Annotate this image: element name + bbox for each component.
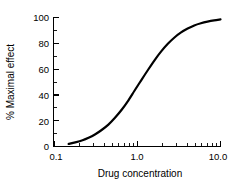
y-tick-label-100: 100	[33, 12, 49, 23]
x-tick-label-1-0: 1.0	[130, 151, 143, 162]
chart-figure: 100 80 60 40 20 0	[0, 0, 233, 194]
y-tick-label-20: 20	[38, 116, 49, 127]
dose-response-curve	[69, 19, 221, 143]
x-tick-label-0-1: 0.1	[49, 151, 62, 162]
dose-response-chart: 100 80 60 40 20 0	[0, 0, 233, 194]
x-tick-label-10-0: 10.0	[209, 151, 228, 162]
x-axis-title: Drug concentration	[98, 168, 183, 179]
y-tick-label-60: 60	[38, 64, 49, 75]
y-axis-title: % Maximal effect	[5, 44, 16, 120]
y-tick-label-80: 80	[38, 38, 49, 49]
y-tick-label-40: 40	[38, 90, 49, 101]
y-tick-label-0: 0	[44, 141, 49, 152]
